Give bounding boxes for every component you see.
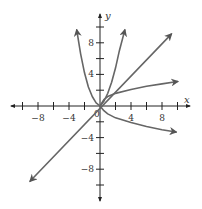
x-tick-label: 8 [159, 113, 165, 123]
x-tick-label: −4 [62, 113, 76, 123]
y-tick-label: −8 [81, 164, 95, 174]
y-axis-label: y [104, 10, 111, 21]
y-tick-label: −4 [81, 133, 95, 143]
x-tick-label: −8 [31, 113, 45, 123]
right-slow-curve [100, 82, 178, 106]
y-tick-label: 4 [88, 69, 94, 79]
x-axis-label: x [184, 94, 190, 105]
function-graph: −8−448 84−4−8 x y 0 [0, 0, 202, 209]
y-tick-label: 8 [88, 38, 94, 48]
